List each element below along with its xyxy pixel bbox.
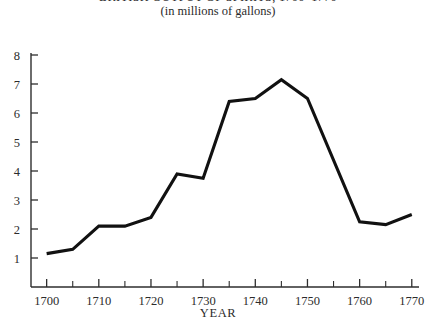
y-tick-label: 1 [14, 252, 20, 266]
y-axis-tick-labels: 12345678 [14, 49, 21, 266]
x-axis-ticks [47, 279, 412, 287]
x-axis-label: YEAR [0, 306, 436, 321]
y-tick-label: 3 [14, 194, 20, 208]
y-tick-label: 8 [14, 49, 20, 63]
axes [31, 53, 419, 287]
chart-figure: BRITISH OUTPUT OF SPIRITS, 1700–1770 (in… [0, 0, 436, 328]
line-chart-plot: 12345678 1700171017201730174017501760177… [0, 0, 436, 328]
y-tick-label: 4 [14, 165, 21, 179]
y-tick-label: 2 [14, 223, 20, 237]
data-series [47, 80, 412, 254]
y-tick-label: 5 [14, 136, 20, 150]
y-axis-ticks [31, 55, 38, 258]
y-tick-label: 6 [14, 107, 20, 121]
y-tick-label: 7 [14, 78, 20, 92]
series-line [47, 80, 412, 254]
